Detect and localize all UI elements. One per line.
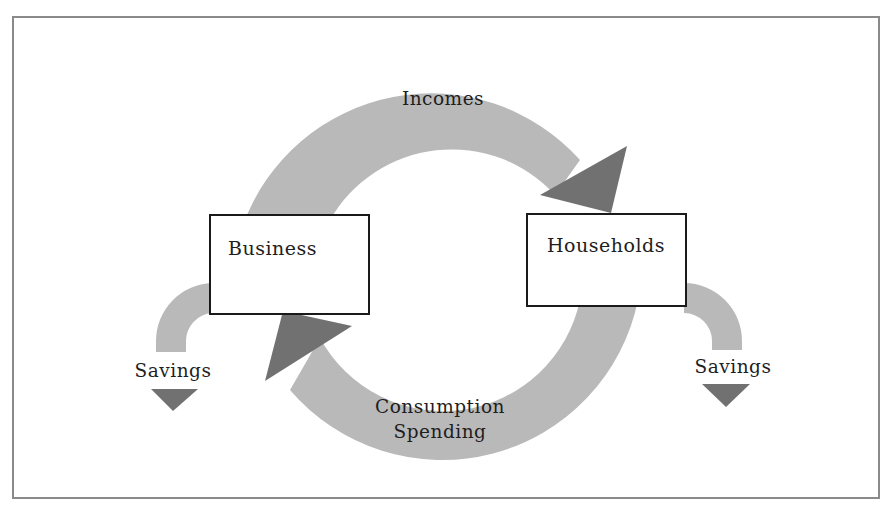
household-savings-flow-band <box>684 283 742 350</box>
incomes-label: Incomes <box>398 86 488 111</box>
consumption-spending-label: Consumption Spending <box>360 394 520 444</box>
households-label: Households <box>547 234 665 256</box>
household-savings-label: Savings <box>688 354 778 379</box>
business-node: Business <box>209 214 370 315</box>
households-node: Households <box>526 213 687 307</box>
consumption-label-line1: Consumption <box>360 394 520 419</box>
business-savings-label: Savings <box>128 358 218 383</box>
business-savings-arrowhead-icon <box>151 389 198 411</box>
household-savings-arrowhead-icon <box>702 384 750 407</box>
consumption-label-line2: Spending <box>360 419 520 444</box>
incomes-flow-band <box>243 93 580 225</box>
business-label: Business <box>228 237 317 259</box>
business-savings-flow-band <box>156 283 212 352</box>
